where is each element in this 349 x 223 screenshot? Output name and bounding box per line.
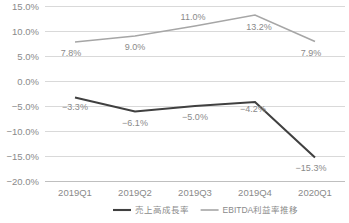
series-lines — [75, 15, 315, 158]
y-axis-tick-labels: 15.0%10.0%5.0%0.0%−5.0%−10.0%−15.0%−20.0… — [7, 1, 40, 187]
legend-label: 売上高成長率 — [135, 205, 189, 215]
y-tick-label: 15.0% — [12, 1, 39, 12]
y-tick-label: −15.0% — [7, 151, 40, 162]
x-tick-label: 2019Q3 — [178, 187, 212, 198]
data-label: −3.3% — [62, 102, 88, 112]
data-label: 11.0% — [181, 12, 206, 22]
x-axis-tick-labels: 2019Q12019Q22019Q32019Q42020Q1 — [58, 187, 332, 198]
y-tick-label: 0.0% — [17, 76, 39, 87]
gridlines — [45, 7, 345, 182]
y-tick-label: −5.0% — [12, 101, 40, 112]
x-tick-label: 2019Q1 — [58, 187, 92, 198]
x-tick-label: 2020Q1 — [298, 187, 332, 198]
data-label: 7.8% — [61, 48, 82, 58]
y-tick-label: −20.0% — [7, 176, 40, 187]
y-tick-label: −10.0% — [7, 126, 40, 137]
x-tick-label: 2019Q2 — [118, 187, 152, 198]
data-label: −15.3% — [296, 163, 327, 173]
data-label: −4.2% — [240, 104, 266, 114]
y-tick-label: 5.0% — [17, 51, 39, 62]
data-label: 7.9% — [301, 48, 322, 58]
chart-legend: 売上高成長率EBITDA利益率推移 — [113, 205, 298, 215]
y-tick-label: 10.0% — [12, 26, 39, 37]
legend-label: EBITDA利益率推移 — [223, 205, 299, 215]
line-chart: 15.0%10.0%5.0%0.0%−5.0%−10.0%−15.0%−20.0… — [0, 0, 349, 223]
data-label: 13.2% — [246, 22, 272, 32]
data-label: −5.0% — [182, 112, 208, 122]
data-point-labels: −3.3%−6.1%−5.0%−4.2%−15.3%7.8%9.0%11.0%1… — [61, 12, 327, 173]
chart-plot-area: 15.0%10.0%5.0%0.0%−5.0%−10.0%−15.0%−20.0… — [0, 0, 349, 223]
x-tick-label: 2019Q4 — [238, 187, 272, 198]
data-label: −6.1% — [122, 118, 148, 128]
data-label: 9.0% — [125, 42, 146, 52]
